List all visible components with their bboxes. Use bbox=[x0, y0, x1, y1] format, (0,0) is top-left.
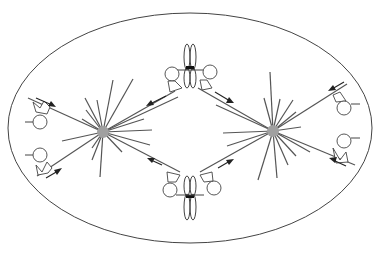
kinetochore-motor-top-left-stalk bbox=[168, 81, 182, 92]
cortex-motors-left bbox=[25, 101, 52, 175]
kinetochore-motor-top-right-head bbox=[203, 65, 217, 79]
cortex-motors-right bbox=[333, 92, 360, 163]
kinetochore-motor-top-left-head bbox=[165, 67, 179, 81]
spindle-diagram bbox=[0, 0, 381, 255]
kinetochore-motor-bottom-right-head bbox=[207, 181, 221, 195]
kinetochore-motor-bottom-right-stalk bbox=[200, 172, 213, 182]
right-spindle-pole bbox=[267, 125, 279, 137]
top-chromosome bbox=[165, 44, 217, 92]
diagram-canvas bbox=[0, 0, 381, 255]
motion-arrows bbox=[36, 82, 346, 178]
kinetochore-motor-bottom-left-head bbox=[163, 183, 177, 197]
left-spindle-pole bbox=[97, 126, 109, 138]
bottom-chromosome bbox=[163, 172, 221, 220]
kinetochore-motor-top-right-stalk bbox=[200, 80, 212, 90]
kinetochore-motor-bottom-left-stalk bbox=[167, 172, 180, 182]
